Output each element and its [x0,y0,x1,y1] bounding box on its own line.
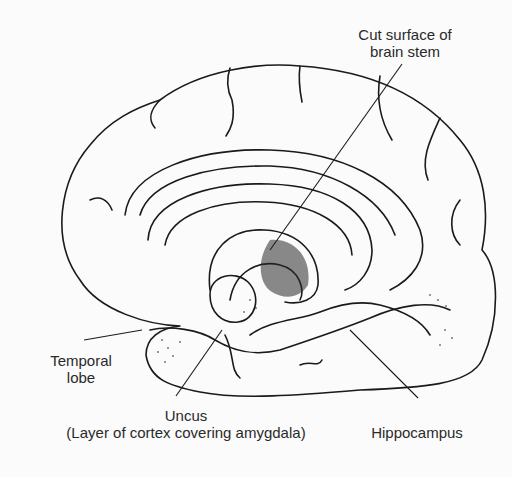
leader-uncus [176,330,222,396]
label-line: (Layer of cortex covering amygdala) [36,424,336,441]
label-line: Uncus [36,407,336,424]
label-cut-surface-brain-stem: Cut surface of brain stem [340,26,470,60]
leader-temporal-lobe [84,330,142,340]
temporal-lobe [150,305,450,353]
label-line: brain stem [340,43,470,60]
leader-brain-stem [270,64,402,250]
brain-illustration [0,0,512,477]
label-line: Cut surface of [340,26,470,43]
label-line: Hippocampus [362,424,472,441]
leader-hippocampus [350,330,418,398]
label-line: lobe [36,369,126,386]
label-line: Temporal [36,352,126,369]
label-hippocampus: Hippocampus [362,424,472,441]
label-temporal-lobe: Temporal lobe [36,352,126,386]
label-uncus: Uncus (Layer of cortex covering amygdala… [36,407,336,441]
hemisphere-outline [62,65,496,396]
corpus-callosum [148,184,372,290]
uncus [210,276,256,323]
